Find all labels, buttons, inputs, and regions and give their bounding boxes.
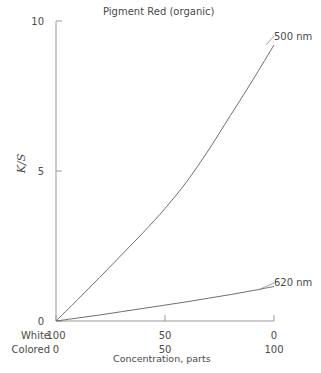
x-tick-label-colored-0: 0 <box>39 345 73 355</box>
series-label-620nm: 620 nm <box>274 278 312 288</box>
plot-area <box>0 0 321 373</box>
y-tick-label-5: 5 <box>14 167 44 177</box>
y-tick-label-0: 0 <box>14 317 44 327</box>
y-tick-label-10: 10 <box>14 17 44 27</box>
y-axis-label: K/S <box>16 140 27 188</box>
x-tick-label-white-2: 0 <box>257 331 291 341</box>
chart-title: Pigment Red (organic) <box>103 7 214 17</box>
leader-line-500nm <box>266 36 274 45</box>
chart-figure: Pigment Red (organic) K/S 10 5 0 White C… <box>0 0 321 373</box>
series-label-500nm: 500 nm <box>274 32 312 42</box>
x-tick-label-white-1: 50 <box>148 331 182 341</box>
x-axis-label: Concentration, parts <box>113 354 211 364</box>
series-line-500nm <box>56 45 274 321</box>
x-tick-label-colored-2: 100 <box>257 345 291 355</box>
x-tick-label-white-0: 100 <box>39 331 73 341</box>
